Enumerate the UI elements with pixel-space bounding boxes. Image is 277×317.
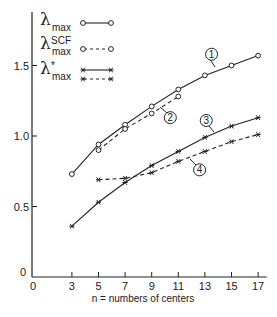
x-tick-label: 7 — [122, 280, 128, 292]
legend-subscript: max — [52, 46, 71, 57]
series-4 — [96, 132, 261, 182]
x-tick-label: 5 — [95, 280, 101, 292]
leader-line — [209, 126, 214, 132]
series-line — [99, 135, 259, 180]
circle-marker — [203, 73, 208, 78]
circle-marker — [96, 142, 101, 147]
star-marker — [229, 139, 234, 144]
star-marker — [149, 170, 154, 175]
circle-marker — [256, 53, 261, 58]
star-marker — [176, 159, 181, 164]
curve-label-3: 3 — [200, 114, 214, 132]
leader-line — [190, 159, 196, 165]
circle-marker — [109, 47, 114, 52]
leader-line — [160, 107, 167, 113]
circle-marker — [81, 21, 86, 26]
legend: λmaxλSCFmaxλ*max — [40, 9, 114, 82]
star-marker — [123, 176, 128, 181]
star-marker — [123, 180, 128, 185]
circle-marker — [149, 104, 154, 109]
star-marker — [96, 177, 101, 182]
star-marker — [202, 135, 207, 140]
star-marker — [256, 115, 261, 120]
x-tick-label: 0 — [30, 280, 36, 292]
x-tick-label: 13 — [199, 280, 211, 292]
curve-label-2: 2 — [160, 107, 176, 124]
legend-subscript: max — [52, 71, 71, 82]
x-tick-label: 3 — [69, 280, 75, 292]
legend-item-2: λSCFmax — [40, 33, 113, 57]
star-marker — [108, 77, 113, 82]
circle-marker — [176, 87, 181, 92]
star-marker — [229, 124, 234, 129]
label-number: 4 — [197, 164, 203, 175]
star-marker — [202, 149, 207, 154]
line-chart: 00.51.01.50357911131517 λmaxλSCFmaxλ*max… — [0, 0, 277, 317]
label-number: 2 — [168, 112, 174, 123]
y-tick-label: 0.5 — [14, 201, 29, 213]
circle-marker — [176, 94, 181, 99]
x-tick-label: 15 — [225, 280, 237, 292]
series-3 — [69, 115, 260, 228]
legend-item-3: λ*max — [40, 58, 114, 82]
label-number: 1 — [209, 49, 215, 60]
legend-symbol: λ — [40, 58, 51, 78]
label-number: 3 — [203, 115, 209, 126]
x-tick-label: 9 — [149, 280, 155, 292]
circle-marker — [123, 127, 128, 132]
x-tick-label: 11 — [173, 280, 184, 292]
star-marker — [96, 200, 101, 205]
star-marker — [80, 68, 85, 73]
legend-symbol: λ — [40, 33, 51, 53]
legend-superscript: * — [51, 60, 55, 71]
series-line — [72, 118, 258, 227]
circle-marker — [109, 21, 114, 26]
y-tick-label: 1.5 — [14, 60, 29, 72]
circle-marker — [149, 111, 154, 116]
y-tick-label: 1.0 — [14, 130, 29, 142]
x-tick-label: 17 — [252, 280, 264, 292]
star-marker — [108, 68, 113, 73]
curve-label-4: 4 — [190, 159, 206, 176]
x-axis-title: n = numbers of centers — [92, 293, 195, 304]
circle-marker — [96, 148, 101, 153]
circle-marker — [70, 172, 75, 177]
legend-subscript: max — [52, 22, 71, 33]
star-marker — [149, 163, 154, 168]
legend-item-1: λmax — [40, 9, 113, 33]
star-marker — [80, 77, 85, 82]
circle-marker — [229, 63, 234, 68]
curve-label-1: 1 — [206, 48, 218, 67]
circle-marker — [81, 47, 86, 52]
star-marker — [69, 224, 74, 229]
star-marker — [176, 149, 181, 154]
legend-symbol: λ — [40, 9, 51, 29]
star-marker — [256, 132, 261, 137]
legend-superscript: SCF — [51, 35, 71, 46]
series-line — [99, 97, 179, 151]
y-tick-label: 0 — [20, 266, 26, 278]
